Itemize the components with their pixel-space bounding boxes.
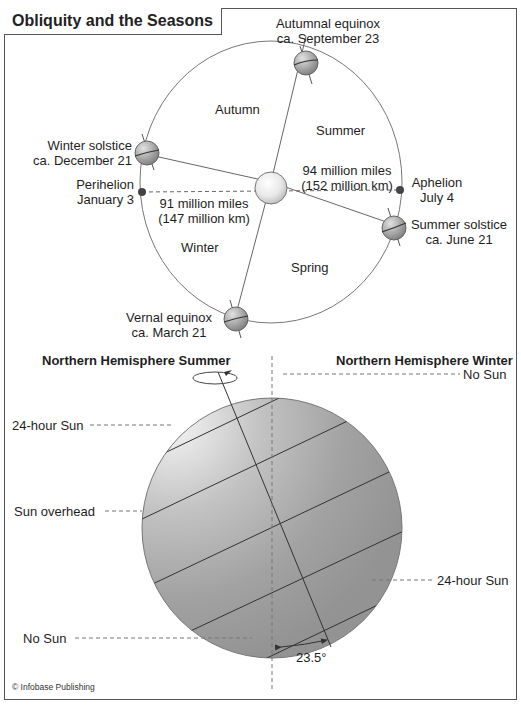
earth-icon-summer-solstice bbox=[382, 208, 406, 246]
vernal-equinox-label: Vernal equinox ca. March 21 bbox=[118, 310, 220, 340]
perihelion-label: Perihelion January 3 bbox=[40, 177, 134, 207]
label-name: Aphelion bbox=[402, 175, 472, 190]
season-spring: Spring bbox=[291, 260, 329, 275]
label-date: ca. March 21 bbox=[118, 325, 220, 340]
label-date: ca. December 21 bbox=[10, 153, 132, 168]
season-winter: Winter bbox=[181, 240, 219, 255]
label-date: ca. September 23 bbox=[268, 31, 388, 46]
label-date: ca. June 21 bbox=[405, 232, 513, 247]
season-summer: Summer bbox=[316, 123, 365, 138]
earth-icon-vernal-equinox bbox=[224, 300, 248, 338]
distance-km: (152 million km) bbox=[291, 178, 403, 193]
winter-solstice-label: Winter solstice ca. December 21 bbox=[10, 138, 132, 168]
tilt-angle-label: 23.5° bbox=[296, 650, 327, 665]
rotation-arrow-icon bbox=[193, 370, 237, 384]
label-date: July 4 bbox=[402, 190, 472, 205]
distance-km: (147 million km) bbox=[148, 211, 260, 226]
nh-summer-heading: Northern Hemisphere Summer bbox=[42, 353, 231, 368]
perihelion-distance: 91 million miles (147 million km) bbox=[148, 196, 260, 226]
aphelion-distance: 94 million miles (152 million km) bbox=[291, 163, 403, 193]
copyright-credit: © Infobase Publishing bbox=[12, 682, 95, 692]
label-date: January 3 bbox=[40, 192, 134, 207]
perihelion-dot bbox=[138, 188, 146, 196]
earth-icon-autumnal-equinox bbox=[294, 46, 318, 84]
label-name: Winter solstice bbox=[10, 138, 132, 153]
label-name: Summer solstice bbox=[405, 217, 513, 232]
aphelion-label: Aphelion July 4 bbox=[402, 175, 472, 205]
24-hour-sun-left-label: 24-hour Sun bbox=[12, 418, 84, 433]
24-hour-sun-right-label: 24-hour Sun bbox=[437, 573, 509, 588]
distance-miles: 91 million miles bbox=[148, 196, 260, 211]
nh-winter-heading: Northern Hemisphere Winter bbox=[336, 353, 513, 368]
season-autumn: Autumn bbox=[215, 102, 260, 117]
distance-miles: 94 million miles bbox=[291, 163, 403, 178]
label-name: Autumnal equinox bbox=[268, 16, 388, 31]
sun-overhead-label: Sun overhead bbox=[14, 504, 95, 519]
no-sun-top-label: No Sun bbox=[463, 367, 506, 382]
label-name: Vernal equinox bbox=[118, 310, 220, 325]
no-sun-bottom-label: No Sun bbox=[23, 631, 66, 646]
autumnal-equinox-label: Autumnal equinox ca. September 23 bbox=[268, 16, 388, 46]
label-name: Perihelion bbox=[40, 177, 134, 192]
summer-solstice-label: Summer solstice ca. June 21 bbox=[405, 217, 513, 247]
earth-icon-winter-solstice bbox=[135, 134, 159, 170]
